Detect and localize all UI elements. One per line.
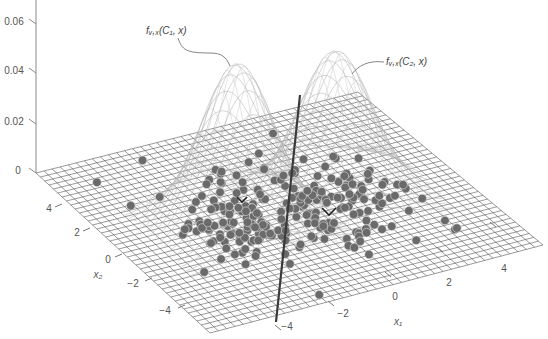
x1-tick-4: 4 (501, 263, 507, 274)
x1-tick-0: 0 (392, 291, 398, 302)
x2-tick-4: 4 (46, 203, 52, 214)
z-axis: 0 0.02 0.04 0.06 (4, 0, 36, 176)
x2-tick-2: 2 (74, 227, 80, 238)
z-tick-004: 0.04 (4, 65, 24, 76)
x1-tick-2: 2 (446, 277, 452, 288)
x2-tick-0: 0 (105, 254, 111, 265)
x2-tick-m4: −4 (159, 305, 171, 316)
x2-axis-title: x₂ (93, 269, 103, 280)
annotation-c1: fᵥ,ₓ(C₁, x) (146, 25, 230, 66)
x1-tick-m4: −4 (281, 321, 293, 332)
annotation-c2: fᵥ,ₓ(C₂, x) (352, 56, 427, 74)
surface-plot: 0 0.02 0.04 0.06 4 2 0 −2 −4 x₂ −4 −2 0 … (0, 0, 548, 339)
annotation-c2-label: fᵥ,ₓ(C₂, x) (386, 56, 427, 67)
annotation-c1-label: fᵥ,ₓ(C₁, x) (146, 25, 187, 36)
z-tick-0: 0 (15, 165, 21, 176)
z-tick-006: 0.06 (4, 16, 24, 27)
x1-axis-title: x₁ (393, 316, 402, 327)
x1-tick-m2: −2 (337, 308, 349, 319)
z-tick-002: 0.02 (4, 116, 24, 127)
x2-tick-m2: −2 (127, 278, 139, 289)
